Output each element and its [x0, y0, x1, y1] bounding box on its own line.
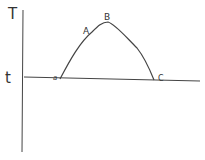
- y-axis-label: T: [7, 5, 18, 23]
- y-axis: [22, 10, 23, 152]
- curve: [60, 22, 154, 80]
- point-label-a: A: [83, 26, 90, 36]
- baseline-axis: [24, 77, 200, 81]
- point-label-c: C: [158, 74, 164, 83]
- point-label-start: a: [53, 74, 57, 82]
- point-label-b: B: [104, 12, 110, 22]
- baseline-label: t: [5, 69, 11, 87]
- temperature-curve-diagram: T t a A B C: [0, 0, 205, 160]
